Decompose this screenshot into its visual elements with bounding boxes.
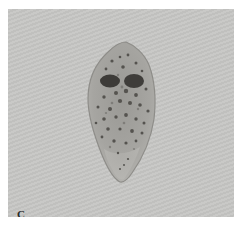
nucleus-right bbox=[124, 74, 144, 88]
nucleus-left bbox=[100, 75, 120, 88]
trophozoite-image bbox=[8, 9, 234, 217]
micrograph-panel: C bbox=[8, 9, 234, 217]
panel-label: C bbox=[17, 208, 25, 217]
